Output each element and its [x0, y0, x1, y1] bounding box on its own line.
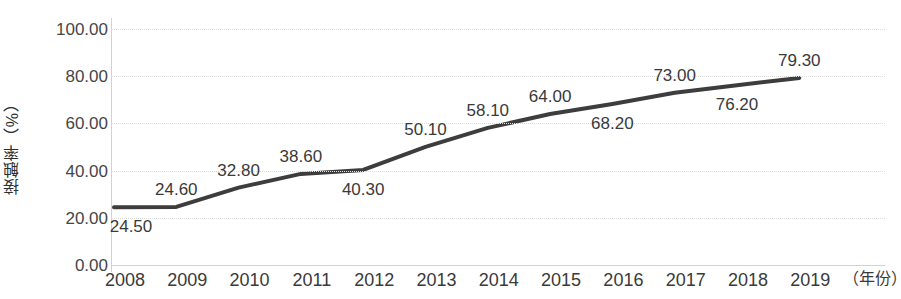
data-point-label: 40.30: [342, 181, 385, 198]
data-series-line: [111, 29, 885, 265]
data-point-label: 50.10: [404, 121, 447, 138]
x-axis-tick-label: 2015: [541, 271, 581, 289]
y-axis-tick-label: 80.00: [30, 68, 108, 85]
series-polyline: [114, 78, 799, 207]
x-axis-tick-labels: （年份） 20082009201020112012201320142015201…: [111, 271, 901, 299]
x-axis-tick-label: 2014: [479, 271, 519, 289]
x-axis-tick-label: 2019: [790, 271, 830, 289]
y-axis-tick-label: 20.00: [30, 209, 108, 226]
data-point-label: 64.00: [529, 88, 572, 105]
data-point-label: 32.80: [217, 162, 260, 179]
data-point-label: 79.30: [778, 52, 821, 69]
x-axis-tick-label: 2009: [167, 271, 207, 289]
gridline: [111, 76, 885, 78]
data-point-label: 24.60: [155, 181, 198, 198]
gridline: [111, 218, 885, 220]
gridline: [111, 265, 885, 267]
data-point-label: 24.50: [110, 218, 153, 235]
y-axis-tick-label: 40.00: [30, 162, 108, 179]
y-axis-tick-label: 60.00: [30, 115, 108, 132]
data-point-label: 76.20: [716, 96, 759, 113]
x-axis-tick-label: 2017: [666, 271, 706, 289]
y-axis-tick-label: 0.00: [30, 257, 108, 274]
data-point-label: 38.60: [280, 148, 323, 165]
x-axis-title-label: （年份）: [843, 271, 901, 287]
x-axis-tick-label: 2011: [293, 271, 332, 289]
data-point-label: 68.20: [591, 115, 634, 132]
gridline: [111, 29, 885, 31]
x-axis-tick-label: 2018: [728, 271, 768, 289]
data-point-label: 58.10: [467, 102, 510, 119]
x-axis-tick-label: 2008: [105, 271, 145, 289]
y-axis-tick-label: 100.00: [30, 21, 108, 38]
x-axis-tick-label: 2010: [230, 271, 270, 289]
gridline: [111, 123, 885, 125]
x-axis-tick-label: 2016: [603, 271, 643, 289]
line-chart: 接触率（%） 100.0080.0060.0040.0020.000.00 24…: [0, 0, 901, 299]
x-axis-tick-label: 2012: [354, 271, 394, 289]
x-axis-tick-label: 2013: [416, 271, 456, 289]
y-axis-title-label: 接触率（%）: [5, 95, 21, 195]
data-point-label: 73.00: [653, 67, 696, 84]
y-axis-title: 接触率（%）: [0, 60, 26, 230]
y-axis-tick-labels: 100.0080.0060.0040.0020.000.00: [26, 0, 108, 299]
plot-area: 24.5024.6032.8038.6040.3050.1058.1064.00…: [111, 29, 885, 265]
